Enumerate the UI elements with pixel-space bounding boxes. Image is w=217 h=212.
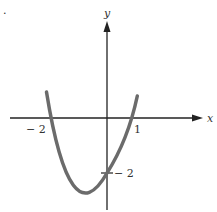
- parabola-chart: . x y − 2 1 − 2: [0, 0, 217, 212]
- y-tick-label-neg2: − 2: [114, 167, 134, 180]
- corner-mark: .: [3, 4, 7, 17]
- x-axis-arrow-icon: [192, 115, 203, 122]
- x-tick-label-neg2: − 2: [26, 123, 46, 136]
- x-axis-label: x: [207, 112, 214, 125]
- y-axis-arrow-icon: [104, 21, 111, 32]
- x-tick-label-1: 1: [134, 123, 141, 136]
- y-axis-label: y: [103, 7, 111, 20]
